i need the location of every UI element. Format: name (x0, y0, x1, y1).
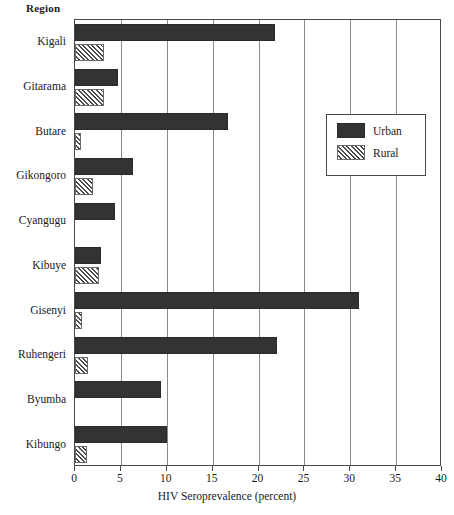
x-axis-tick (74, 466, 75, 471)
legend-item-rural: Rural (337, 145, 425, 160)
urban-bar-wrap (75, 247, 440, 264)
y-axis-label-kibungo: Kibungo (26, 438, 66, 450)
rural-bar-wrap (75, 312, 440, 329)
bar-row (75, 333, 440, 378)
urban-bar (75, 247, 101, 264)
bar-rows (75, 20, 440, 465)
urban-bar (75, 381, 161, 398)
rural-bar-wrap (75, 223, 440, 240)
x-axis-tick-label: 10 (160, 472, 172, 484)
rural-bar (75, 44, 104, 61)
rural-bar (75, 312, 82, 329)
urban-bar-wrap (75, 426, 440, 443)
x-axis-tick (258, 466, 259, 471)
x-axis-tick (120, 466, 121, 471)
x-axis-tick (441, 466, 442, 471)
x-axis-title: HIV Seroprevalence (percent) (0, 490, 454, 502)
hatched-swatch-icon (337, 145, 365, 160)
x-axis-tick-label: 40 (435, 472, 447, 484)
rural-bar (75, 267, 99, 284)
urban-bar (75, 69, 118, 86)
rural-bar-wrap (75, 178, 440, 195)
rural-bar-wrap (75, 401, 440, 418)
urban-bar-wrap (75, 292, 440, 309)
x-axis-tick (166, 466, 167, 471)
rural-bar (75, 89, 104, 106)
solid-dark-swatch-icon (337, 123, 365, 138)
y-axis-label-cyangugu: Cyangugu (19, 214, 66, 226)
rural-bar (75, 178, 93, 195)
legend-label-urban: Urban (373, 125, 402, 137)
urban-bar-wrap (75, 203, 440, 220)
urban-bar-wrap (75, 381, 440, 398)
rural-bar (75, 446, 87, 463)
legend-label-rural: Rural (373, 147, 399, 159)
urban-bar (75, 292, 359, 309)
bar-row (75, 244, 440, 289)
y-axis-label-byumba: Byumba (27, 393, 66, 405)
x-axis-tick (303, 466, 304, 471)
rural-bar-wrap (75, 446, 440, 463)
y-axis-label-butare: Butare (35, 125, 66, 137)
x-axis-tick-label: 15 (206, 472, 218, 484)
bar-row (75, 65, 440, 110)
urban-bar (75, 426, 167, 443)
x-axis-tick (395, 466, 396, 471)
x-axis-tick-label: 30 (344, 472, 356, 484)
y-axis-label-gitarama: Gitarama (23, 80, 66, 92)
y-axis-label-gikongoro: Gikongoro (16, 169, 66, 181)
urban-bar (75, 158, 133, 175)
urban-bar (75, 203, 115, 220)
y-axis-label-kigali: Kigali (37, 35, 66, 47)
x-axis-tick-labels: 0510152025303540 (0, 472, 454, 492)
x-axis-tick (349, 466, 350, 471)
plot-area (74, 19, 441, 466)
bar-row (75, 288, 440, 333)
rural-bar (75, 357, 88, 374)
rural-bar-wrap (75, 267, 440, 284)
x-axis-tick (212, 466, 213, 471)
chart-legend: Urban Rural (326, 114, 426, 176)
x-axis-tick-label: 35 (389, 472, 401, 484)
bar-row (75, 199, 440, 244)
bar-row (75, 20, 440, 65)
urban-bar-wrap (75, 337, 440, 354)
bar-row (75, 378, 440, 423)
urban-bar-wrap (75, 24, 440, 41)
urban-bar (75, 337, 277, 354)
urban-bar-wrap (75, 69, 440, 86)
hiv-seroprevalence-bar-chart: Region KigaliGitaramaButareGikongoroCyan… (0, 0, 454, 515)
y-axis-category-labels: KigaliGitaramaButareGikongoroCyanguguKib… (0, 19, 70, 466)
rural-bar-wrap (75, 44, 440, 61)
y-axis-label-kibuye: Kibuye (32, 259, 66, 271)
urban-bar (75, 113, 228, 130)
rural-bar (75, 133, 81, 150)
urban-bar (75, 24, 275, 41)
rural-bar-wrap (75, 89, 440, 106)
x-axis-tick-label: 25 (298, 472, 310, 484)
x-axis-tick-label: 20 (252, 472, 264, 484)
rural-bar-wrap (75, 357, 440, 374)
region-axis-header: Region (26, 2, 60, 14)
y-axis-label-gisenyi: Gisenyi (30, 304, 66, 316)
bar-row (75, 422, 440, 467)
y-axis-label-ruhengeri: Ruhengeri (18, 348, 66, 360)
x-axis-tick-label: 0 (71, 472, 77, 484)
x-axis-tick-label: 5 (117, 472, 123, 484)
legend-item-urban: Urban (337, 123, 425, 138)
